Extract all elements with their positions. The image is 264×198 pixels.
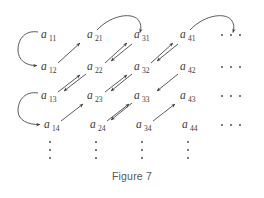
term-a42-base: a bbox=[180, 60, 186, 72]
arrow-a14-to-a23 bbox=[61, 104, 83, 121]
term-a14-base: a bbox=[44, 118, 50, 130]
term-a44-base: a bbox=[182, 118, 188, 130]
term-a11: a 11 bbox=[41, 28, 57, 43]
arrow-a12-to-a21 bbox=[58, 43, 80, 63]
horizontal-ellipsis-row-4 bbox=[221, 124, 241, 126]
term-a43: a 43 bbox=[180, 89, 196, 104]
term-a21-subscript: 21 bbox=[95, 34, 103, 43]
arrow-a22-to-a31 bbox=[105, 43, 127, 63]
term-a33-subscript: 33 bbox=[142, 95, 150, 104]
term-a12: a 12 bbox=[41, 60, 57, 75]
arrow-a13-to-a22 bbox=[58, 75, 80, 92]
term-a31-base: a bbox=[134, 28, 140, 40]
term-a22-base: a bbox=[87, 60, 93, 72]
term-a21: a 21 bbox=[87, 28, 103, 43]
term-a32-base: a bbox=[134, 60, 140, 72]
term-a12-base: a bbox=[41, 60, 47, 72]
term-a22-subscript: 22 bbox=[95, 66, 103, 75]
term-a44-subscript: 44 bbox=[190, 124, 198, 133]
term-a31: a 31 bbox=[134, 28, 150, 43]
term-a12-subscript: 12 bbox=[49, 66, 57, 75]
term-a13: a 13 bbox=[41, 89, 57, 104]
term-a42: a 42 bbox=[180, 60, 196, 75]
term-a31-subscript: 31 bbox=[142, 34, 150, 43]
horizontal-ellipsis-row-1 bbox=[221, 34, 241, 36]
term-a13-base: a bbox=[41, 89, 47, 101]
vertical-ellipsis-column-2 bbox=[95, 141, 97, 159]
term-a41: a 41 bbox=[180, 28, 196, 43]
horizontal-ellipsis-row-3 bbox=[221, 95, 241, 97]
term-a43-base: a bbox=[180, 89, 186, 101]
cantor-diagonal-diagram: a 11 a 21 a 31 a 41 a 12 a 22 a 32 a bbox=[0, 0, 264, 198]
horizontal-ellipsis-row-2 bbox=[221, 66, 241, 68]
term-a34: a 34 bbox=[136, 118, 152, 133]
figure-caption: Figure 7 bbox=[0, 170, 264, 182]
arrow-a24-to-a33 bbox=[107, 104, 129, 121]
term-a41-base: a bbox=[180, 28, 186, 40]
arrow-a21-to-a12 bbox=[64, 74, 86, 91]
term-a11-base: a bbox=[41, 28, 47, 40]
term-a33: a 33 bbox=[134, 89, 150, 104]
term-a21-base: a bbox=[87, 28, 93, 40]
loop-arrow-a11-to-a12 bbox=[18, 32, 38, 66]
arrow-a43-to-a34 bbox=[111, 74, 132, 91]
figure-container: a 11 a 21 a 31 a 41 a 12 a 22 a 32 a bbox=[0, 0, 264, 198]
arrow-a32-to-a41 bbox=[151, 43, 173, 63]
term-a24-base: a bbox=[90, 118, 96, 130]
term-a34-subscript: 34 bbox=[144, 124, 152, 133]
term-a13-subscript: 13 bbox=[49, 95, 57, 104]
arrow-a41-to-a32 bbox=[157, 44, 178, 61]
term-a41-subscript: 41 bbox=[188, 34, 196, 43]
arrow-a34-to-a43 bbox=[153, 104, 175, 121]
term-a14-subscript: 14 bbox=[52, 124, 60, 133]
term-a23-base: a bbox=[87, 89, 93, 101]
arrow-a23-to-a32 bbox=[105, 75, 127, 92]
vertical-ellipsis-column-4 bbox=[187, 141, 189, 159]
loop-arrow-a13-to-a14 bbox=[18, 93, 40, 125]
term-a42-subscript: 42 bbox=[188, 66, 196, 75]
arrow-a31-to-a22 bbox=[111, 44, 132, 61]
term-a34-base: a bbox=[136, 118, 142, 130]
vertical-ellipsis-column-3 bbox=[141, 141, 143, 159]
arc-arrow-a41-to-ellipsis bbox=[190, 16, 234, 33]
term-a43-subscript: 43 bbox=[188, 95, 196, 104]
arrow-a33-to-a24 bbox=[111, 103, 132, 120]
term-a44: a 44 bbox=[182, 118, 198, 133]
term-a24: a 24 bbox=[90, 118, 106, 133]
term-a32: a 32 bbox=[134, 60, 150, 75]
arrow-a42-to-a33 bbox=[157, 74, 178, 91]
term-a24-subscript: 24 bbox=[98, 124, 106, 133]
term-a14: a 14 bbox=[44, 118, 60, 133]
term-a32-subscript: 32 bbox=[142, 66, 150, 75]
vertical-ellipsis-column-1 bbox=[49, 141, 51, 159]
term-a22: a 22 bbox=[87, 60, 103, 75]
term-a11-subscript: 11 bbox=[49, 34, 57, 43]
term-a23-subscript: 23 bbox=[95, 95, 103, 104]
term-a23: a 23 bbox=[87, 89, 103, 104]
term-a33-base: a bbox=[134, 89, 140, 101]
